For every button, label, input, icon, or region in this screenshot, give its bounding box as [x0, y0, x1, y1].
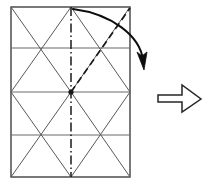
next-step-block-arrow-outline [158, 85, 201, 112]
figure-canvas: Origami crease pattern fold step [0, 0, 209, 187]
center-vertex-dot [68, 89, 73, 94]
next-step-block-arrow [158, 85, 201, 112]
origami-diagram-figure: Origami crease pattern fold step [0, 0, 209, 187]
